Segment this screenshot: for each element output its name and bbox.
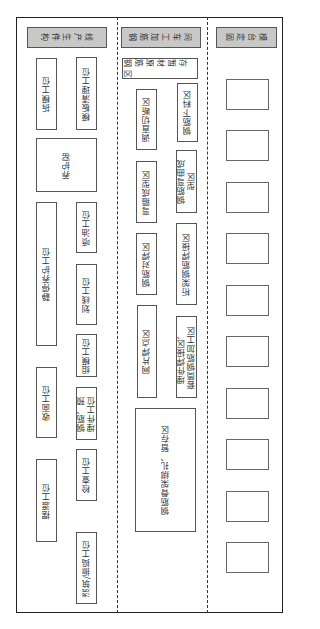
station-box: 浇筑/振捣工位 [76,532,97,604]
area-label: 调直切断区 [142,97,152,142]
station-box: 模板清理工位 [76,57,97,130]
workshop-area-box: 调直切断区 [136,89,157,150]
header-label: 固定台模 [225,32,269,43]
station-box: 喷油工位 [76,202,97,253]
fixed-mold-slot [226,233,269,264]
station-box: 收面工位 [36,367,57,438]
workshop-area-box: 钢筋原材暂存区 [122,58,198,79]
workshop-area-box: 埋件焊接区、 套筒钢筋加工区 [176,316,197,398]
area-label: 浇筑/振捣工位 [82,540,92,597]
area-label: 桁架钢筋焊接区 [182,233,192,296]
header-production-line: 构件生产线 [27,27,107,48]
fixed-mold-slot [226,130,269,161]
workshop-area-box: 钢筋弯曲成 型区 [176,150,197,213]
station-box: 摆渡工位 [36,459,57,542]
station-box: 静停养护工位 [36,202,57,346]
area-label: 静停养护工位 [42,247,52,301]
workshop-area-box: 钢筋对焊区 [136,233,157,295]
station-box: 养护窑 [36,138,97,192]
fixed-mold-slot [226,285,269,316]
fixed-mold-slot [226,491,269,522]
area-label: 摆渡工位 [42,483,52,519]
fixed-mold-slot [226,388,269,419]
area-label: 钢筋弯曲成 型区 [177,159,197,204]
section-divider-1 [117,17,118,613]
header-fixed-molds: 固定台模 [216,27,277,48]
workshop-area-box: 弯箍成型区 [136,161,157,223]
area-label: 弯箍成型区 [142,170,152,215]
area-label: 网片焊点区 [142,329,152,374]
area-label: 组模工位 [82,338,92,374]
area-label: 检查工位 [82,457,92,493]
area-label: 收面工位 [42,385,52,421]
fixed-mold-slot [226,79,269,110]
station-box: 组模工位 [76,334,97,377]
header-rebar-workshop: 钢筋加工车间 [121,27,201,48]
area-label: 钢筋骨架绑扎、暂存区 [161,425,171,515]
fixed-mold-slot [226,542,269,573]
area-label: 喷油工位 [82,210,92,246]
section-divider-2 [207,17,208,613]
fixed-mold-slot [226,439,269,470]
fixed-mold-slot [226,336,269,367]
area-label: 划线工位 [82,277,92,313]
workshop-area-box: 网片焊点区 [137,305,157,398]
area-label: 模板清理工位 [82,67,92,121]
station-box: 检查工位 [76,449,97,501]
area-label: 埋件焊接区、 套筒钢筋加工区 [177,326,197,389]
header-label: 构件生产线 [40,32,95,43]
station-box: 拆模工位 [36,58,57,130]
workshop-area-box: 桁架钢筋焊接区 [176,223,197,305]
area-label: 拆模工位 [42,76,52,112]
area-label: 钢筋对焊区 [142,242,152,287]
station-box: 划线工位 [76,264,97,325]
fixed-mold-slot [226,182,269,213]
area-label: 养护窑 [62,152,72,179]
workshop-area-box: 钢筋骨架绑扎、暂存区 [135,408,196,532]
area-label: 钢筋、预 埋件工位 [77,396,97,432]
header-label: 钢筋加工车间 [128,32,194,43]
workshop-area-box: 钢筋下料区 [177,83,198,142]
area-label: 钢筋下料区 [183,90,193,135]
area-label: 钢筋原材暂存区 [123,58,197,79]
station-box: 钢筋、预 埋件工位 [76,387,97,440]
